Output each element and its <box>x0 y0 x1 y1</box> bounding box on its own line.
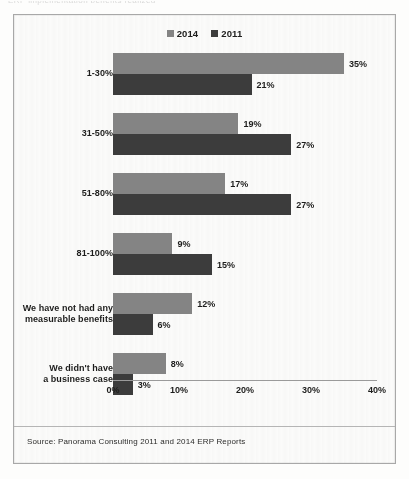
scan-top-text-sliver: ERP implementation benefits realized <box>8 1 338 8</box>
bar-value-label: 27% <box>291 140 314 150</box>
bar-row: 17% <box>113 173 377 194</box>
bar-2011[interactable] <box>113 74 252 95</box>
category-label: 31-50% <box>9 128 113 140</box>
bar-2014[interactable] <box>113 173 225 194</box>
x-tick-label: 20% <box>236 385 254 395</box>
legend-entry-2011[interactable]: 2011 <box>211 28 242 39</box>
bar-row: 27% <box>113 194 377 215</box>
bar-row: 6% <box>113 314 377 335</box>
bar-2011[interactable] <box>113 134 291 155</box>
x-tick-label: 10% <box>170 385 188 395</box>
x-axis-tick-labels: 0%10%20%30%40% <box>14 385 397 399</box>
bar-row: 12% <box>113 293 377 314</box>
bar-2014[interactable] <box>113 293 192 314</box>
scan-top-text: ERP implementation benefits realized <box>8 1 338 5</box>
bar-value-label: 19% <box>238 119 261 129</box>
legend-swatch-2011 <box>211 30 218 37</box>
bar-2014[interactable] <box>113 353 166 374</box>
bar-value-label: 15% <box>212 260 235 270</box>
bar-2011[interactable] <box>113 194 291 215</box>
bar-row: 19% <box>113 113 377 134</box>
bar-value-label: 9% <box>172 239 190 249</box>
x-tick-label: 30% <box>302 385 320 395</box>
bar-row: 27% <box>113 134 377 155</box>
legend-swatch-2014 <box>167 30 174 37</box>
bar-row: 21% <box>113 74 377 95</box>
bar-row: 35% <box>113 53 377 74</box>
category-label: We have not had anymeasurable benefits <box>9 303 113 326</box>
bar-2014[interactable] <box>113 233 172 254</box>
x-tick-label: 40% <box>368 385 386 395</box>
x-tick-label: 0% <box>106 385 119 395</box>
category-label: 1-30% <box>9 68 113 80</box>
bar-value-label: 17% <box>225 179 248 189</box>
bar-row: 15% <box>113 254 377 275</box>
plot-area: 1-30%35%21%31-50%19%27%51-80%17%27%81-10… <box>14 47 397 412</box>
bar-value-label: 35% <box>344 59 367 69</box>
bar-2014[interactable] <box>113 53 344 74</box>
chart-legend: 2014 2011 <box>14 28 395 39</box>
bar-value-label: 8% <box>166 359 184 369</box>
bar-value-label: 12% <box>192 299 215 309</box>
category-label: 81-100% <box>9 248 113 260</box>
bar-row: 9% <box>113 233 377 254</box>
bar-row: 8% <box>113 353 377 374</box>
chart-frame: 2014 2011 1-30%35%21%31-50%19%27%51-80%1… <box>13 14 396 464</box>
legend-label-2014: 2014 <box>177 28 199 39</box>
category-label: We didn't havea business case <box>9 363 113 386</box>
x-axis-line <box>113 380 377 381</box>
bar-value-label: 21% <box>252 80 275 90</box>
source-note: Source: Panorama Consulting 2011 and 201… <box>27 437 245 446</box>
bar-2011[interactable] <box>113 314 153 335</box>
bar-2014[interactable] <box>113 113 238 134</box>
bar-2011[interactable] <box>113 254 212 275</box>
bar-value-label: 6% <box>153 320 171 330</box>
footer-divider <box>14 426 395 427</box>
legend-entry-2014[interactable]: 2014 <box>167 28 199 39</box>
bar-value-label: 27% <box>291 200 314 210</box>
legend-label-2011: 2011 <box>221 28 242 39</box>
category-label: 51-80% <box>9 188 113 200</box>
